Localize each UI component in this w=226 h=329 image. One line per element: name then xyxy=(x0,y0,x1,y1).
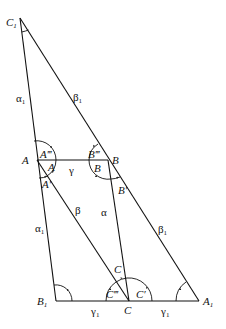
label-B1: B1 xyxy=(37,295,47,309)
label-alpha1-upper: α1 xyxy=(16,92,26,106)
label-beta1-upper: β1 xyxy=(73,91,83,105)
label-C: C xyxy=(124,304,132,316)
label-alpha: α xyxy=(101,206,107,218)
label-gamma: γ xyxy=(68,164,74,176)
label-beta: β xyxy=(75,204,81,216)
label-alpha1-lower: α1 xyxy=(35,222,45,236)
angle-arc-B1 xyxy=(54,285,72,301)
label-gamma1-left: γ1 xyxy=(90,305,100,319)
label-C1: C1 xyxy=(6,16,17,30)
label-angle-B-prime: B′ xyxy=(118,184,128,196)
angle-arc-A1 xyxy=(176,282,186,301)
label-angle-A-triple: A‴ xyxy=(39,148,53,160)
label-angle-B-triple: B‴ xyxy=(88,148,101,160)
label-B: B xyxy=(112,154,119,166)
label-angle-A: A xyxy=(47,161,55,173)
label-angle-C-triple: C‴ xyxy=(106,288,119,300)
label-gamma1-right: γ1 xyxy=(160,305,170,319)
segment-B-C xyxy=(108,160,129,301)
label-angle-C-top: C xyxy=(114,263,122,275)
label-angle-C-prime: C′ xyxy=(136,288,146,300)
angle-arc-C1 xyxy=(22,30,29,32)
label-angle-A-prime: A′ xyxy=(41,178,52,190)
label-A1: A1 xyxy=(202,295,213,309)
geometry-diagram: C1 A B B1 C A1 α1 β1 γ α1 β α β1 γ1 γ1 A… xyxy=(0,0,226,329)
label-A: A xyxy=(21,154,29,166)
angle-arc-B-prime xyxy=(111,177,120,179)
label-angle-B: B xyxy=(94,162,101,174)
label-beta1-lower: β1 xyxy=(158,223,168,237)
